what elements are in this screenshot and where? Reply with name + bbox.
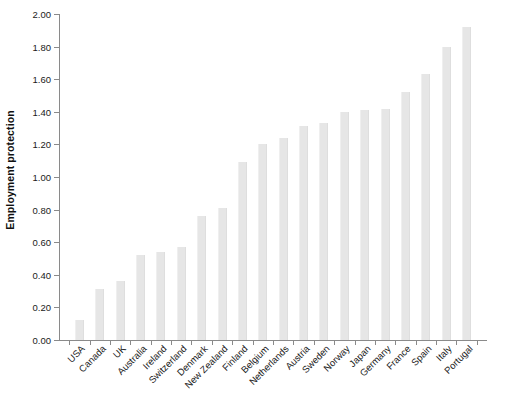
bar — [258, 144, 267, 340]
y-axis-tick-label: 2.00 — [11, 9, 51, 20]
y-axis-tick-label: 0.40 — [11, 269, 51, 280]
y-axis-tick-label: 1.80 — [11, 41, 51, 52]
bar — [442, 47, 451, 340]
bar — [218, 208, 227, 340]
y-axis-tick — [54, 144, 59, 145]
bar — [421, 74, 430, 340]
bar — [95, 289, 104, 340]
bar — [75, 320, 84, 340]
y-axis-tick — [54, 112, 59, 113]
bar — [238, 162, 247, 340]
y-axis-tick-label: 1.20 — [11, 139, 51, 150]
bar — [340, 112, 349, 340]
bar — [299, 126, 308, 340]
y-axis-tick-label: 0.80 — [11, 204, 51, 215]
y-axis-tick — [54, 79, 59, 80]
bar — [319, 123, 328, 340]
employment-protection-bar-chart: Employment protection 0.000.200.400.600.… — [0, 0, 507, 412]
y-axis-tick-label: 1.40 — [11, 106, 51, 117]
bar — [381, 109, 390, 340]
bar — [360, 110, 369, 340]
bar — [197, 216, 206, 340]
y-axis-tick-label: 0.20 — [11, 302, 51, 313]
bar — [401, 92, 410, 340]
bar — [156, 252, 165, 340]
y-axis-tick — [54, 177, 59, 178]
bar — [177, 247, 186, 340]
x-axis-labels: USACanadaUKAustraliaIrelandSwitzerlandDe… — [59, 340, 487, 412]
y-axis-tick — [54, 242, 59, 243]
y-axis-tick — [54, 47, 59, 48]
y-axis-tick — [54, 210, 59, 211]
y-axis-tick — [54, 14, 59, 15]
y-axis-tick-label: 0.60 — [11, 237, 51, 248]
y-axis-line — [59, 14, 60, 340]
plot-area: 0.000.200.400.600.801.001.201.401.601.80… — [59, 14, 487, 340]
bar — [462, 27, 471, 340]
y-axis-tick-label: 0.00 — [11, 335, 51, 346]
y-axis-tick-label: 1.00 — [11, 172, 51, 183]
bar — [136, 255, 145, 340]
bar — [279, 138, 288, 340]
x-axis-tick-label: Spain — [409, 343, 434, 368]
y-axis-tick — [54, 275, 59, 276]
bar — [116, 281, 125, 340]
y-axis-tick — [54, 307, 59, 308]
y-axis-tick-label: 1.60 — [11, 74, 51, 85]
